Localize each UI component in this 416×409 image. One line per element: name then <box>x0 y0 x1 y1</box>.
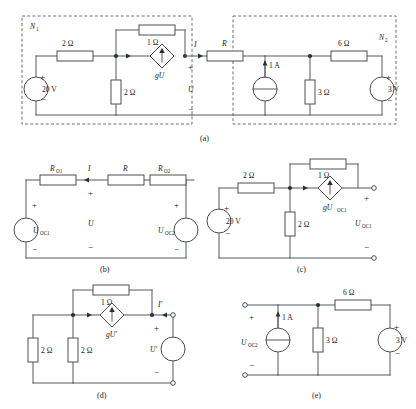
panel-a-current-I-label: I <box>193 40 197 49</box>
panel-a-resistor-feedback-1ohm-label: 1 Ω <box>147 38 159 47</box>
panel-b-resistor-R <box>108 175 144 185</box>
panel-e-output-sub: OC2 <box>248 342 258 348</box>
panel-a-source-1a-arrowhead <box>263 60 268 66</box>
panel-b-source-uoc2-plus: + <box>174 200 179 210</box>
circuit-figure-svg: 20 V + − 2 Ω 2 Ω 1 Ω gU + U − N 1 N 2 <box>0 0 416 409</box>
panel-d-terminal-bottom <box>171 381 176 386</box>
panel-d-caption: (d) <box>97 391 107 400</box>
panel-a-resistor-3ohm <box>305 80 315 104</box>
panel-a-label-n2: N <box>378 33 385 42</box>
panel-c-caption: (c) <box>297 265 306 274</box>
panel-e-node <box>316 303 320 307</box>
panel-c: 20 V + − 2 Ω 2 Ω 1 Ω gU OC1 + U OC1 − (c… <box>207 159 376 274</box>
panel-e: + U OC2 − 1 A 3 Ω 6 Ω 3 V + − (e) <box>241 288 408 400</box>
panel-a-resistor-shunt-2ohm <box>111 80 121 104</box>
panel-a-source-20v-label: 20 V <box>42 85 57 94</box>
panel-a-caption: (a) <box>200 134 209 143</box>
panel-a-resistor-R <box>207 51 243 61</box>
panel-e-caption: (e) <box>312 391 321 400</box>
panel-c-branch-current-arrow <box>303 186 308 191</box>
panel-b-source-uoc1-sub: OC1 <box>40 230 50 236</box>
panel-b-source-uoc2 <box>174 218 198 242</box>
panel-e-source-3v-label: 3 V <box>396 336 408 345</box>
panel-b-resistor-ro1 <box>40 175 76 185</box>
panel-a-node-left <box>114 54 118 58</box>
panel-a-port-voltage-label: U <box>188 85 194 94</box>
panel-a-resistor-shunt-2ohm-label: 2 Ω <box>124 88 136 97</box>
panel-b-voltage-U-label: U <box>88 219 94 228</box>
panel-c-source-20v-label: 20 V <box>226 217 241 226</box>
panel-c-dependent-source-label: gU <box>323 203 333 212</box>
panel-e-terminal-top <box>243 303 248 308</box>
panel-e-resistor-3ohm-label: 3 Ω <box>326 336 338 345</box>
panel-a-dependent-source-label: gU <box>155 71 165 80</box>
panel-d-test-source-minus: − <box>154 367 159 377</box>
panel-d-resistor-feedback-1ohm <box>93 285 129 295</box>
panel-a-source-20v-plus: + <box>40 72 45 82</box>
panel-a-resistor-3ohm-label: 3 Ω <box>318 88 330 97</box>
panel-a-resistor-series-2ohm-label: 2 Ω <box>62 39 74 48</box>
panel-b-source-uoc2-label: U <box>158 226 164 235</box>
panel-c-source-20v-minus: − <box>225 228 230 238</box>
panel-b-resistor-ro2-sub: O2 <box>164 168 171 174</box>
panel-c-terminal-bottom <box>372 256 377 261</box>
panel-c-resistor-shunt-2ohm-label: 2 Ω <box>298 220 310 229</box>
panel-a-source-3v-label: 3 V <box>388 85 400 94</box>
panel-a: 20 V + − 2 Ω 2 Ω 1 Ω gU + U − N 1 N 2 <box>22 16 400 143</box>
panel-b-resistor-ro2-label: R <box>157 164 163 173</box>
panel-e-resistor-6ohm-label: 6 Ω <box>343 288 355 297</box>
panel-c-resistor-feedback-1ohm <box>310 159 346 169</box>
panel-c-dependent-source-sub: OC1 <box>337 207 347 213</box>
panel-a-resistor-series-2ohm <box>57 51 93 61</box>
panel-e-source-3v-minus: − <box>395 348 400 358</box>
panel-b-source-uoc1-label: U <box>33 226 39 235</box>
panel-e-source-1a-arrowhead <box>276 311 281 317</box>
panel-a-source-1a-label: 1 A <box>269 61 280 70</box>
panel-d-resistor-left-2ohm <box>28 338 38 362</box>
panel-a-resistor-feedback-1ohm <box>139 25 175 35</box>
panel-c-resistor-shunt-2ohm <box>285 212 295 236</box>
panel-b-resistor-ro2 <box>150 175 186 185</box>
panel-d-terminal-top <box>171 313 176 318</box>
panel-c-output-sub: OC1 <box>362 223 372 229</box>
panel-d-test-current-arrow <box>162 313 167 318</box>
panel-e-source-1a-label: 1 A <box>282 313 293 322</box>
panel-c-terminal-top <box>372 186 377 191</box>
panel-c-resistor-series-2ohm-label: 2 Ω <box>243 171 255 180</box>
panel-b-voltage-minus: − <box>88 242 93 252</box>
panel-a-resistor-6ohm-label: 6 Ω <box>338 39 350 48</box>
panel-a-label-n1-sub: 1 <box>36 26 39 32</box>
panel-e-terminal-bottom <box>243 373 248 378</box>
panel-d-test-current-label: I′ <box>157 300 163 309</box>
panel-a-network-n2-box <box>233 16 396 124</box>
panel-b-voltage-plus: + <box>88 188 93 198</box>
panel-c-output-plus: + <box>364 193 369 203</box>
panel-b-current-I-arrow <box>84 178 89 183</box>
panel-b-source-uoc1-minus: − <box>32 244 37 254</box>
panel-a-source-20v-minus: − <box>41 94 46 104</box>
panel-d-branch-current-arrow <box>87 313 92 318</box>
panel-d-test-source <box>161 337 185 361</box>
panel-a-source-3v-minus: − <box>387 95 392 105</box>
panel-e-source-3v-plus: + <box>394 322 399 332</box>
panel-b-source-uoc2-sub: OC2 <box>165 230 175 236</box>
figure-sheet: 20 V + − 2 Ω 2 Ω 1 Ω gU + U − N 1 N 2 <box>0 0 416 409</box>
panel-d-resistor-mid-2ohm-label: 2 Ω <box>81 346 93 355</box>
panel-c-output-label: U <box>355 219 361 228</box>
panel-a-resistor-R-label: R <box>221 39 227 48</box>
panel-a-branch-current-arrow <box>126 54 131 59</box>
panel-c-resistor-series-2ohm <box>238 183 274 193</box>
panel-d-resistor-left-2ohm-label: 2 Ω <box>41 346 53 355</box>
panel-b-caption: (b) <box>100 265 110 274</box>
panel-a-label-n1: N <box>29 22 36 31</box>
panel-e-resistor-6ohm <box>335 300 371 310</box>
panel-b-source-uoc1-plus: + <box>32 200 37 210</box>
panel-a-node-n2 <box>308 54 312 58</box>
panel-d-test-source-label: U′ <box>150 345 157 354</box>
panel-a-source-3v-plus: + <box>386 72 391 82</box>
panel-b-source-uoc2-minus: − <box>174 244 179 254</box>
panel-b-resistor-R-label: R <box>122 164 128 173</box>
panel-a-current-I-arrow <box>198 54 203 59</box>
panel-a-label-n2-sub: 2 <box>385 37 388 43</box>
panel-d: 2 Ω 2 Ω 1 Ω gU′ U′ + − I′ (d) <box>28 285 185 400</box>
